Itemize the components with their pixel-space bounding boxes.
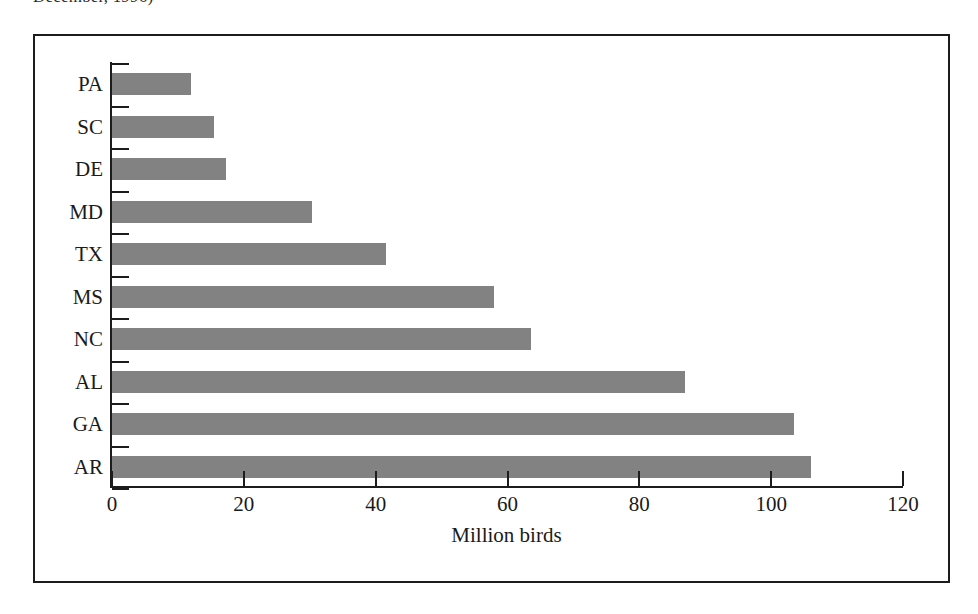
category-tick (112, 276, 129, 278)
figure-caption-fragment: December, 1996) (33, 0, 153, 7)
value-tick-label: 100 (755, 491, 787, 517)
category-label-nc: NC (37, 328, 103, 350)
category-tick (112, 488, 129, 490)
value-tick (111, 471, 113, 486)
bar-de (112, 158, 226, 180)
value-tick (770, 471, 772, 486)
category-label-sc: SC (37, 116, 103, 138)
category-tick (112, 63, 129, 65)
value-tick-label: 20 (233, 491, 254, 517)
value-tick-label: 40 (365, 491, 386, 517)
category-label-al: AL (37, 371, 103, 393)
value-tick (638, 471, 640, 486)
category-label-ms: MS (37, 286, 103, 308)
category-tick (112, 403, 129, 405)
bar-ms (112, 286, 494, 308)
value-tick-label: 0 (107, 491, 118, 517)
figure-frame: PASCDEMDTXMSNCALGAAR 020406080100120 Mil… (33, 34, 950, 583)
bar-al (112, 371, 685, 393)
value-axis-line (110, 486, 903, 488)
value-tick-label: 120 (887, 491, 919, 517)
category-tick (112, 233, 129, 235)
category-tick (112, 106, 129, 108)
category-axis-labels: PASCDEMDTXMSNCALGAAR (35, 36, 103, 581)
category-label-de: DE (37, 158, 103, 180)
category-label-ar: AR (37, 456, 103, 478)
value-axis-title: Million birds (110, 523, 903, 548)
category-label-pa: PA (37, 73, 103, 95)
value-tick (243, 471, 245, 486)
value-tick (902, 471, 904, 486)
bar-pa (112, 73, 191, 95)
category-tick (112, 446, 129, 448)
bar-md (112, 201, 312, 223)
category-label-md: MD (37, 201, 103, 223)
bar-nc (112, 328, 531, 350)
category-label-tx: TX (37, 243, 103, 265)
category-tick (112, 191, 129, 193)
value-tick (507, 471, 509, 486)
category-tick (112, 148, 129, 150)
bar-ga (112, 413, 794, 435)
bar-sc (112, 116, 214, 138)
category-label-ga: GA (37, 413, 103, 435)
bar-ar (112, 456, 811, 478)
value-tick-label: 80 (629, 491, 650, 517)
bar-tx (112, 243, 386, 265)
category-tick (112, 318, 129, 320)
value-tick (375, 471, 377, 486)
category-tick (112, 361, 129, 363)
value-tick-label: 60 (497, 491, 518, 517)
plot-area: PASCDEMDTXMSNCALGAAR 020406080100120 Mil… (35, 36, 948, 581)
